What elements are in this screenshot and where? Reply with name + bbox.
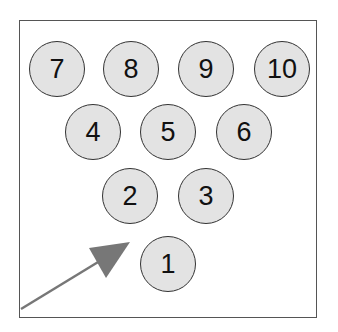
arrow-icon bbox=[0, 0, 338, 332]
